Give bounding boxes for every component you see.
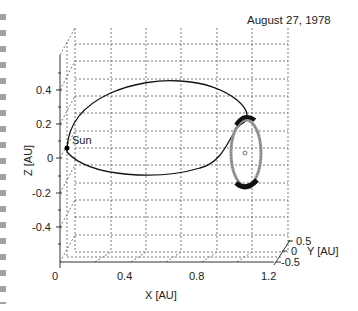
axes — [56, 55, 293, 268]
sun-label: Sun — [72, 134, 92, 146]
x-tick-label: 0.8 — [189, 270, 204, 282]
large-orbit — [67, 81, 247, 175]
back-wall-grid — [60, 28, 288, 262]
z-tick-label: 0 — [47, 152, 53, 164]
chart-title: August 27, 1978 — [247, 14, 331, 26]
z-tick-label: 0.4 — [36, 84, 51, 96]
y-tick-label: -0.5 — [281, 256, 300, 268]
z-axis-label: Z [AU] — [22, 145, 34, 176]
z-tick-label: -0.4 — [32, 221, 51, 233]
x-axis-label: X [AU] — [145, 289, 177, 301]
z-tick-label: 0.2 — [36, 118, 51, 130]
sun-marker — [65, 146, 70, 151]
small-loop — [231, 117, 261, 187]
x-tick-label: 1.2 — [261, 270, 276, 282]
plot-area — [0, 0, 358, 311]
z-tick-label: -0.2 — [32, 187, 51, 199]
x-tick-label: 0 — [52, 270, 58, 282]
y-axis-label: Y [AU] — [307, 245, 339, 257]
x-tick-label: 0.4 — [117, 270, 132, 282]
